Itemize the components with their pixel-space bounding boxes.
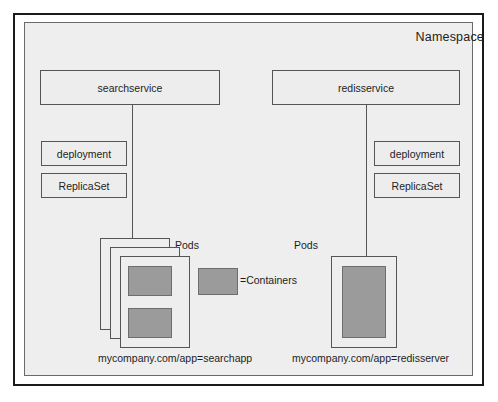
connector-redisservice-to-pods — [366, 105, 367, 256]
container-box-left-1 — [128, 266, 172, 296]
replicaset-box-left[interactable]: ReplicaSet — [41, 173, 127, 198]
selector-label-left: mycompany.com/app=searchapp — [98, 352, 252, 364]
namespace-label: Namespace — [416, 30, 485, 44]
service-box-searchservice[interactable]: searchservice — [40, 70, 220, 105]
selector-label-right: mycompany.com/app=redisserver — [292, 352, 449, 364]
deployment-box-right[interactable]: deployment — [374, 141, 460, 166]
container-box-right-1 — [342, 266, 386, 338]
replicaset-box-right[interactable]: ReplicaSet — [374, 173, 460, 198]
pods-label-right: Pods — [294, 239, 318, 251]
diagram-canvas: Namespace searchservice redisservice dep… — [0, 0, 498, 402]
legend-container-swatch — [198, 268, 238, 295]
deployment-box-left[interactable]: deployment — [41, 141, 127, 166]
legend-container-label: =Containers — [240, 274, 297, 286]
service-box-redisservice[interactable]: redisservice — [272, 70, 460, 105]
connector-searchservice-to-pods — [132, 105, 133, 238]
container-box-left-2 — [128, 308, 172, 338]
